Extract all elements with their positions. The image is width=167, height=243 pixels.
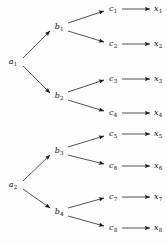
tree-diagram: a1a2b1b2b3b4c1c2c3c4c5c6c7c8x1x2x3x4x5x6… bbox=[0, 0, 167, 243]
node-subscript: 1 bbox=[159, 8, 163, 14]
tree-edge bbox=[23, 189, 50, 208]
node-base-letter: c bbox=[109, 108, 113, 117]
node-base-letter: x bbox=[154, 39, 159, 48]
node-subscript: 5 bbox=[159, 133, 163, 139]
node-subscript: 4 bbox=[159, 112, 163, 118]
tree-edge bbox=[68, 31, 104, 42]
node-subscript: 2 bbox=[14, 184, 18, 190]
tree-node-x3: x3 bbox=[154, 75, 162, 83]
node-base-letter: x bbox=[154, 161, 159, 170]
node-subscript: 2 bbox=[114, 43, 118, 49]
node-subscript: 6 bbox=[114, 165, 118, 171]
tree-edge bbox=[68, 198, 104, 208]
tree-node-b3: b3 bbox=[55, 147, 64, 155]
tree-edges-layer bbox=[0, 0, 167, 243]
tree-edge bbox=[68, 100, 104, 111]
node-base-letter: c bbox=[109, 161, 113, 170]
node-base-letter: x bbox=[154, 108, 159, 117]
node-subscript: 5 bbox=[114, 133, 118, 139]
node-subscript: 1 bbox=[60, 26, 64, 32]
tree-node-c6: c6 bbox=[109, 162, 117, 170]
node-base-letter: c bbox=[109, 4, 113, 13]
tree-edge bbox=[68, 11, 104, 23]
tree-node-a1: a1 bbox=[9, 58, 17, 66]
node-base-letter: x bbox=[154, 192, 159, 201]
tree-node-c1: c1 bbox=[109, 5, 117, 13]
tree-node-b2: b2 bbox=[55, 92, 64, 100]
tree-node-x5: x5 bbox=[154, 130, 162, 138]
node-subscript: 1 bbox=[14, 61, 18, 67]
tree-node-c2: c2 bbox=[109, 40, 117, 48]
node-base-letter: x bbox=[154, 129, 159, 138]
tree-node-b1: b1 bbox=[55, 23, 64, 31]
edges-group bbox=[23, 9, 150, 228]
tree-node-b4: b4 bbox=[55, 208, 64, 216]
node-base-letter: c bbox=[109, 74, 113, 83]
tree-node-x8: x8 bbox=[154, 224, 162, 232]
node-base-letter: c bbox=[109, 192, 113, 201]
node-base-letter: c bbox=[109, 39, 113, 48]
tree-edge bbox=[68, 80, 104, 92]
tree-edge bbox=[68, 216, 104, 226]
node-base-letter: x bbox=[154, 74, 159, 83]
node-subscript: 3 bbox=[114, 78, 118, 84]
node-subscript: 4 bbox=[114, 112, 118, 118]
tree-edge bbox=[68, 136, 104, 147]
node-subscript: 3 bbox=[159, 78, 163, 84]
node-subscript: 4 bbox=[60, 211, 64, 217]
node-base-letter: x bbox=[154, 4, 159, 13]
tree-node-c3: c3 bbox=[109, 75, 117, 83]
tree-edge bbox=[68, 155, 104, 164]
tree-node-x6: x6 bbox=[154, 162, 162, 170]
tree-edge bbox=[23, 31, 50, 58]
tree-edge bbox=[23, 66, 50, 93]
tree-node-x7: x7 bbox=[154, 193, 162, 201]
tree-node-c7: c7 bbox=[109, 193, 117, 201]
node-subscript: 7 bbox=[114, 196, 118, 202]
node-base-letter: c bbox=[109, 129, 113, 138]
tree-node-c8: c8 bbox=[109, 224, 117, 232]
node-subscript: 2 bbox=[60, 95, 64, 101]
tree-node-c4: c4 bbox=[109, 109, 117, 117]
tree-node-c5: c5 bbox=[109, 130, 117, 138]
node-subscript: 1 bbox=[114, 8, 118, 14]
node-subscript: 2 bbox=[159, 43, 163, 49]
tree-edge bbox=[23, 155, 50, 181]
node-base-letter: c bbox=[109, 223, 113, 232]
node-subscript: 8 bbox=[114, 227, 118, 233]
tree-node-x2: x2 bbox=[154, 40, 162, 48]
node-subscript: 8 bbox=[159, 227, 163, 233]
node-base-letter: x bbox=[154, 223, 159, 232]
node-subscript: 7 bbox=[159, 196, 163, 202]
node-subscript: 6 bbox=[159, 165, 163, 171]
node-subscript: 3 bbox=[60, 150, 64, 156]
tree-node-x1: x1 bbox=[154, 5, 162, 13]
tree-node-x4: x4 bbox=[154, 109, 162, 117]
tree-node-a2: a2 bbox=[9, 181, 17, 189]
